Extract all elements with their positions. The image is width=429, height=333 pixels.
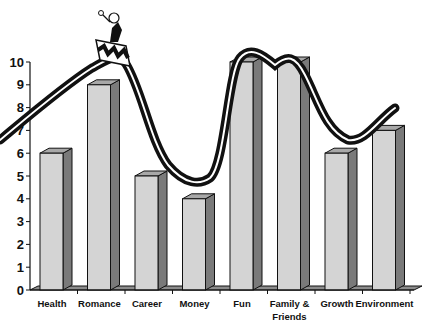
x-tick-label: Romance — [78, 298, 121, 309]
bar-growth — [325, 148, 357, 290]
bar-career — [135, 171, 167, 290]
bar-health — [40, 148, 72, 290]
y-tick-label: 10 — [10, 55, 24, 70]
y-tick-label: 5 — [17, 169, 24, 184]
y-tick-label: 0 — [17, 283, 24, 298]
bar-money — [183, 194, 215, 290]
x-tick-label: Career — [132, 298, 162, 309]
x-tick-label: Growth — [320, 298, 353, 309]
y-tick-label: 1 — [17, 260, 24, 275]
y-tick-label: 6 — [17, 146, 24, 161]
y-tick-label: 4 — [17, 191, 25, 206]
x-axis-labels: HealthRomanceCareerMoneyFunFamily &Frien… — [37, 298, 414, 322]
x-tick-label: Environment — [355, 298, 414, 309]
y-tick-label: 9 — [17, 77, 24, 92]
y-tick-label: 2 — [17, 237, 24, 252]
bar-environment — [373, 125, 405, 290]
bars — [40, 57, 405, 290]
x-tick-label: Family &Friends — [270, 298, 310, 322]
x-tick-label: Health — [37, 298, 66, 309]
x-tick-label: Money — [179, 298, 210, 309]
x-tick-label: Fun — [233, 298, 251, 309]
life-balance-bar-chart: 012345678910 HealthRomanceCareerMoneyFun… — [0, 0, 429, 333]
bar-family-friends — [278, 57, 310, 290]
roller-coaster-rider-illustration — [96, 11, 130, 67]
bar-romance — [88, 80, 120, 290]
y-tick-label: 3 — [17, 214, 24, 229]
y-tick-label: 8 — [17, 100, 24, 115]
